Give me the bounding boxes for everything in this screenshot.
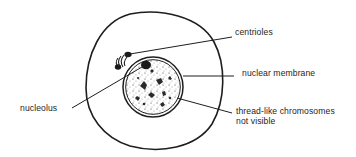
label-nucleolus: nucleolus [20, 103, 57, 113]
cell-drawing [0, 0, 356, 157]
nucleus [123, 57, 183, 117]
leader-centrioles [130, 37, 232, 54]
nucleolus-blob [141, 61, 151, 69]
leader-chromosomes [177, 98, 232, 113]
label-chromosomes-line1: thread-like chromosomes [236, 106, 335, 116]
centrioles-icon [115, 52, 132, 70]
label-centrioles: centrioles [235, 27, 273, 37]
cell-diagram: centrioles nuclear membrane thread-like … [0, 0, 356, 157]
label-chromosomes: thread-like chromosomes not visible [236, 106, 335, 126]
label-chromosomes-line2: not visible [236, 116, 335, 126]
label-nuclear-membrane: nuclear membrane [242, 68, 315, 78]
